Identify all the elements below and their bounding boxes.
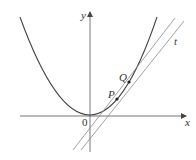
- y-axis-label: y: [80, 9, 86, 21]
- point-p-label: P: [107, 88, 115, 100]
- point-p: [115, 97, 118, 100]
- point-q-label: Q: [119, 71, 127, 83]
- tangent-label: t: [174, 35, 178, 47]
- secant-line-pq: [73, 18, 175, 150]
- x-axis-label: x: [184, 116, 190, 128]
- point-q: [127, 80, 130, 83]
- origin-label: 0: [82, 116, 88, 128]
- parabola-tangent-diagram: y x 0 P Q t: [0, 0, 196, 160]
- parabola-curve: [20, 17, 157, 115]
- tangent-line-t: [81, 21, 184, 150]
